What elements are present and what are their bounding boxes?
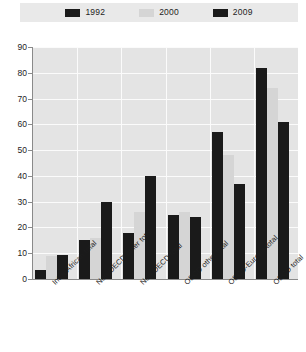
y-axis: 9080706050403020100 [0, 34, 27, 292]
y-tick-mark [28, 253, 32, 254]
y-tick-mark [28, 47, 32, 48]
y-tick-label: 0 [3, 275, 27, 284]
x-axis-line [32, 279, 298, 280]
y-tick-mark [28, 202, 32, 203]
y-tick-mark [28, 176, 32, 177]
bar-group [166, 47, 210, 279]
y-tick-mark [28, 124, 32, 125]
y-tick-mark [28, 279, 32, 280]
legend-swatch-icon [139, 9, 154, 17]
legend-entry: 2000 [139, 8, 179, 17]
bar-group [210, 47, 254, 279]
chart-area: 9080706050403020100 Intra-African totalN… [0, 34, 306, 352]
y-tick-label: 80 [3, 69, 27, 78]
y-tick-label: 90 [3, 43, 27, 52]
y-tick-mark [28, 150, 32, 151]
y-tick-label: 30 [3, 198, 27, 207]
bar [278, 122, 289, 279]
y-tick-mark [28, 227, 32, 228]
x-axis-labels: Intra-African totalNon-OECD other totalN… [33, 281, 298, 351]
y-tick-label: 40 [3, 172, 27, 181]
y-tick-label: 60 [3, 120, 27, 129]
legend-label: 1992 [85, 8, 105, 17]
legend-label: 2000 [159, 8, 179, 17]
y-tick-label: 70 [3, 95, 27, 104]
y-tick-label: 20 [3, 223, 27, 232]
legend-entry: 2009 [213, 8, 253, 17]
bar-group [77, 47, 121, 279]
legend-entry: 1992 [65, 8, 105, 17]
y-axis-line [32, 47, 33, 280]
bar [35, 270, 46, 279]
bar-group [121, 47, 165, 279]
y-tick-mark [28, 73, 32, 74]
legend-swatch-icon [65, 9, 80, 17]
bar-group [33, 47, 77, 279]
plot-area [33, 47, 298, 279]
bar [223, 155, 234, 279]
y-tick-label: 10 [3, 249, 27, 258]
y-tick-label: 50 [3, 146, 27, 155]
y-tick-mark [28, 99, 32, 100]
chart-legend: 199220002009 [20, 3, 298, 22]
legend-swatch-icon [213, 9, 228, 17]
legend-label: 2009 [233, 8, 253, 17]
